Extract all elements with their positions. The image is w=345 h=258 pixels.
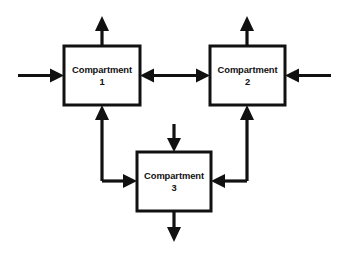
input-to-compartment-2-arrowhead [285,69,299,83]
output-from-compartment-3-arrow [167,211,181,242]
transfer-compartment-3-to-2-arrow [240,105,254,181]
output-from-compartment-3-arrowhead [167,227,181,242]
transfer-compartment-3-to-1-arrowhead [95,105,109,120]
output-from-compartment-2-arrow [240,16,254,46]
output-from-compartment-1-arrowhead [95,16,109,31]
transfer-compartment-1-to-3-arrow [102,174,137,188]
transfer-compartment-3-to-2-arrowhead [240,105,254,120]
exchange-arrowhead-toward-compartment-1 [140,69,154,83]
compartment-3-number: 3 [171,182,176,193]
input-to-compartment-3-arrowhead [167,138,181,152]
input-to-compartment-3-arrow [167,124,181,152]
output-from-compartment-2-arrowhead [240,16,254,31]
input-to-compartment-1-arrowhead [50,69,64,83]
transfer-compartment-2-to-3-arrow [211,174,247,188]
transfer-compartment-3-to-1-arrow [95,105,109,181]
output-from-compartment-1-arrow [95,16,109,46]
transfer-compartment-1-to-3-arrowhead [123,174,137,188]
compartment-3-label: Compartment [144,170,204,181]
input-to-compartment-2-arrow [285,69,331,83]
compartment-1-label: Compartment [72,64,132,75]
compartment-2-label: Compartment [218,64,278,75]
exchange-compartment-1-2-arrow [140,69,210,83]
transfer-compartment-2-to-3-arrowhead [211,174,225,188]
compartment-diagram-canvas: Compartment 1 Compartment 2 Compartment … [0,0,345,258]
compartment-2-number: 2 [245,76,250,87]
compartment-3-box[interactable]: Compartment 3 [137,152,211,211]
exchange-arrowhead-toward-compartment-2 [196,69,210,83]
compartment-1-box[interactable]: Compartment 1 [64,46,140,105]
compartment-flow-diagram: Compartment 1 Compartment 2 Compartment … [0,0,345,258]
input-to-compartment-1-arrow [18,69,64,83]
compartment-2-box[interactable]: Compartment 2 [210,46,285,105]
compartment-1-number: 1 [99,76,104,87]
